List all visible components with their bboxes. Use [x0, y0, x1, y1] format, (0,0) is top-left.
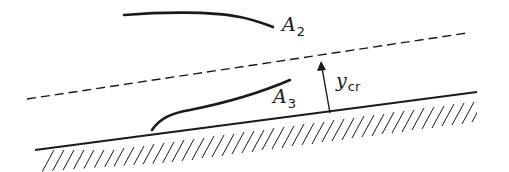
critical-depth-arrow — [317, 61, 330, 113]
critical-depth-line — [27, 33, 467, 99]
ycr-label: ycr — [335, 69, 361, 94]
a3-label: A3 — [271, 85, 296, 111]
a3-profile-curve — [152, 80, 290, 130]
a2-label: A2 — [280, 13, 305, 39]
profile-diagram: A2 A3 ycr — [0, 0, 509, 172]
channel-bed-hatching — [42, 100, 484, 172]
arrowhead-icon — [317, 61, 326, 71]
channel-bed-line — [35, 92, 477, 150]
a2-profile-curve — [124, 13, 273, 27]
